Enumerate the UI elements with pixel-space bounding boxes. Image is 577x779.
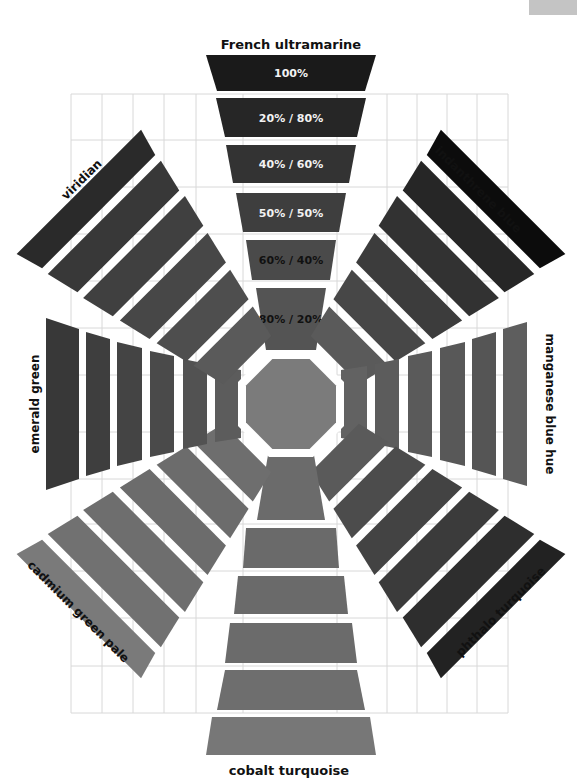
mix-ratio-label: 50% / 50%: [259, 207, 323, 220]
paint-swatch: [234, 576, 348, 614]
arm-label-bottom: cobalt turquoise: [229, 763, 349, 778]
paint-swatch: [440, 342, 465, 466]
paint-swatch: [472, 332, 496, 476]
color-mixing-starburst-diagram: 80% / 20%60% / 40%50% / 50%40% / 60%20% …: [0, 0, 577, 779]
paint-swatch: [46, 318, 79, 490]
arm-left: [46, 318, 241, 490]
mix-ratio-label: 60% / 40%: [259, 254, 323, 267]
paint-swatch: [375, 359, 399, 449]
paint-swatch: [183, 359, 207, 449]
paint-swatch: [206, 717, 376, 755]
paint-swatch: [86, 332, 110, 476]
paint-swatch: [257, 455, 325, 520]
arm-label-right: manganese blue hue: [543, 334, 557, 475]
center-octagon-group: [238, 351, 344, 457]
paint-swatch: [217, 670, 365, 710]
arm-label-top: French ultramarine: [221, 37, 362, 52]
paint-swatch: [503, 322, 527, 486]
paint-swatch: [408, 351, 432, 457]
paint-swatch: [225, 623, 357, 663]
mix-ratio-label: 100%: [274, 67, 308, 80]
mix-ratio-label: 20% / 80%: [259, 112, 323, 125]
paint-swatch: [117, 342, 142, 466]
arm-label-left: emerald green: [28, 354, 42, 453]
paint-swatch: [243, 528, 339, 568]
mix-ratio-label: 80% / 20%: [259, 313, 323, 326]
center-octagon-swatch: [246, 359, 336, 449]
paint-swatch: [150, 351, 174, 457]
mix-ratio-label: 40% / 60%: [259, 158, 323, 171]
